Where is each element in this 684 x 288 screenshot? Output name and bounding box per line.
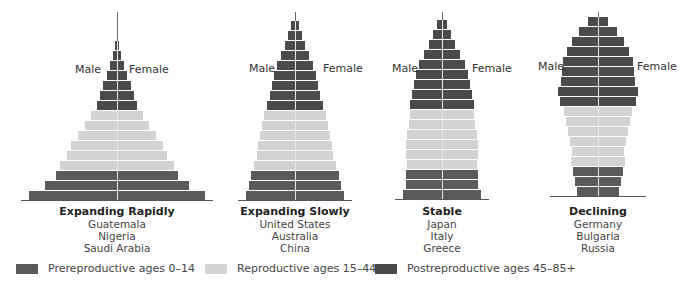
caption-example: China — [215, 242, 375, 254]
caption-title: Expanding Slowly — [215, 206, 375, 218]
caption-example: Australia — [215, 230, 375, 242]
caption-example: Bulgaria — [518, 230, 678, 242]
legend-prereproductive: Prereproductive ages 0–14 — [16, 262, 195, 275]
legend-swatch-reproductive — [205, 264, 227, 274]
legend-label: Reproductive ages 15–44 — [237, 262, 376, 275]
caption-expanding-rapidly: Expanding Rapidly Guatemala Nigeria Saud… — [37, 206, 197, 254]
caption-example: Guatemala — [37, 218, 197, 230]
center-axis — [598, 17, 599, 196]
male-label: Male — [538, 60, 564, 73]
caption-example: Saudi Arabia — [37, 242, 197, 254]
caption-stable: Stable Japan Italy Greece — [362, 206, 522, 254]
caption-title: Expanding Rapidly — [37, 206, 197, 218]
caption-example: Russia — [518, 242, 678, 254]
caption-example: Germany — [518, 218, 678, 230]
legend-reproductive: Reproductive ages 15–44 — [205, 262, 376, 275]
caption-title: Stable — [362, 206, 522, 218]
caption-expanding-slowly: Expanding Slowly United States Australia… — [215, 206, 375, 254]
baseline — [550, 196, 646, 197]
pyramid-declining: MaleFemale — [0, 0, 684, 205]
legend-label: Postreproductive ages 45–85+ — [407, 262, 576, 275]
legend-label: Prereproductive ages 0–14 — [48, 262, 195, 275]
caption-title: Declining — [518, 206, 678, 218]
female-label: Female — [637, 60, 677, 73]
caption-example: Italy — [362, 230, 522, 242]
caption-example: Japan — [362, 218, 522, 230]
legend-postreproductive: Postreproductive ages 45–85+ — [375, 262, 576, 275]
caption-example: United States — [215, 218, 375, 230]
caption-declining: Declining Germany Bulgaria Russia — [518, 206, 678, 254]
legend-swatch-prereproductive — [16, 264, 38, 274]
caption-example: Greece — [362, 242, 522, 254]
legend-swatch-postreproductive — [375, 264, 397, 274]
caption-example: Nigeria — [37, 230, 197, 242]
